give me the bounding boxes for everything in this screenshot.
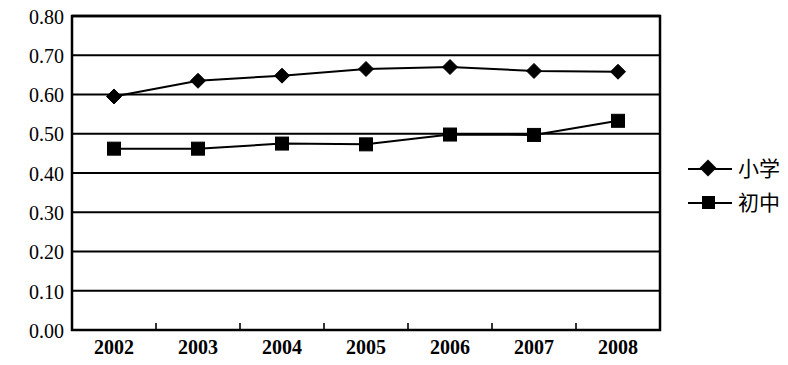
line-chart: 0.80 0.70 0.60 0.50 0.40 0.30 0.20 0.10 … bbox=[0, 0, 788, 365]
x-axis-tick-label: 2008 bbox=[578, 336, 658, 359]
plot-area bbox=[0, 0, 788, 365]
legend-item-xiaoxue: 小学 bbox=[688, 152, 788, 186]
legend-item-label: 小学 bbox=[732, 159, 780, 180]
series-layer bbox=[107, 60, 626, 156]
x-axis-tick-label: 2006 bbox=[410, 336, 490, 359]
chart-legend: 小学 初中 bbox=[688, 152, 788, 220]
x-axis-tick-labels: 2002 2003 2004 2005 2006 2007 2008 bbox=[0, 336, 788, 365]
x-axis-tick-label: 2007 bbox=[494, 336, 574, 359]
gridlines bbox=[72, 16, 660, 291]
legend-square-marker-icon bbox=[688, 193, 732, 213]
legend-item-label: 初中 bbox=[732, 193, 780, 214]
x-axis-tick-label: 2002 bbox=[74, 336, 154, 359]
x-axis-tick-label: 2003 bbox=[158, 336, 238, 359]
x-axis-tick-label: 2004 bbox=[242, 336, 322, 359]
x-axis-tick-label: 2005 bbox=[326, 336, 406, 359]
legend-diamond-marker-icon bbox=[688, 159, 732, 179]
legend-item-chuzhong: 初中 bbox=[688, 186, 788, 220]
